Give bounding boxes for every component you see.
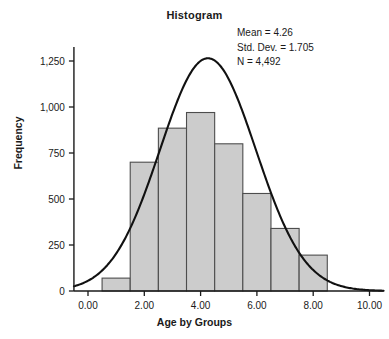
x-tick-label: 0.00 xyxy=(78,300,97,311)
x-tick-label: 4.00 xyxy=(191,300,210,311)
histogram-bar xyxy=(243,193,271,291)
histogram-chart: Histogram Mean = 4.26 Std. Dev. = 1.705 … xyxy=(0,0,389,339)
y-tick-label: 250 xyxy=(12,240,65,251)
histogram-bar xyxy=(158,128,186,291)
y-tick-label: 750 xyxy=(12,148,65,159)
x-tick-label: 6.00 xyxy=(247,300,266,311)
x-tick-label: 2.00 xyxy=(135,300,154,311)
histogram-bar xyxy=(215,144,243,291)
y-tick-label: 1,000 xyxy=(12,102,65,113)
y-tick-label: 0 xyxy=(12,286,65,297)
x-tick-label: 10.00 xyxy=(357,300,382,311)
histogram-bar xyxy=(299,255,327,291)
y-tick-label: 1,250 xyxy=(12,56,65,67)
histogram-bar xyxy=(130,162,158,291)
histogram-bar xyxy=(271,228,299,291)
y-tick-label: 500 xyxy=(12,194,65,205)
histogram-bar xyxy=(187,113,215,291)
histogram-bar xyxy=(102,278,130,291)
x-tick-label: 8.00 xyxy=(303,300,322,311)
bars-group xyxy=(102,113,327,291)
